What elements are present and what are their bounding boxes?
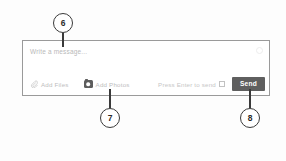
message-input-placeholder: Write a message... — [30, 47, 87, 56]
press-enter-to-send-checkbox[interactable] — [219, 81, 225, 87]
callout-leader-6 — [62, 33, 63, 47]
paperclip-icon — [30, 80, 38, 88]
press-enter-to-send-label: Press Enter to send — [158, 81, 216, 88]
camera-icon — [84, 80, 93, 88]
message-input[interactable]: Write a message... — [23, 41, 269, 73]
screenshot-root: Write a message... Add Files Add Photos … — [0, 0, 286, 161]
add-photos-button[interactable]: Add Photos — [84, 80, 130, 88]
callout-marker-7: 7 — [100, 108, 120, 128]
composer-toolbar: Add Files Add Photos Press Enter to send… — [23, 73, 269, 95]
add-files-button[interactable]: Add Files — [30, 80, 69, 88]
callout-leader-8 — [249, 89, 250, 108]
callout-marker-8: 8 — [240, 108, 260, 128]
add-files-label: Add Files — [41, 81, 69, 88]
callout-marker-6: 6 — [53, 13, 73, 33]
press-enter-to-send-option[interactable]: Press Enter to send — [158, 81, 225, 88]
add-photos-label: Add Photos — [96, 81, 130, 88]
emoji-icon[interactable] — [256, 47, 263, 54]
message-composer-panel: Write a message... Add Files Add Photos … — [22, 40, 270, 96]
callout-leader-7 — [109, 89, 110, 108]
